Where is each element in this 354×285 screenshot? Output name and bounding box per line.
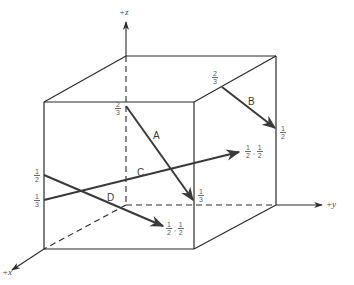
fraction-numerator: 1 [34, 193, 40, 201]
vector-d [44, 175, 163, 226]
vector-d-start-fraction: 12 [34, 168, 40, 183]
fraction-denominator: 2 [178, 229, 184, 236]
edge-right-bottom [194, 205, 276, 249]
vector-c-start-fraction: 13 [34, 193, 40, 208]
vector-d-end-fraction: 12 , 12 [166, 221, 184, 236]
fraction-numerator: 2 [115, 101, 121, 109]
fraction-denominator: 3 [115, 109, 121, 116]
z-axis-label: +z [119, 8, 129, 17]
vector-a [126, 106, 193, 200]
fraction-denominator: 2 [245, 152, 251, 159]
vector-c-end-fraction: 12 , 12 [245, 144, 263, 159]
vector-a-label: A [153, 131, 160, 141]
edge-left-top [44, 56, 126, 102]
x-axis-arrow [12, 249, 44, 270]
fraction-numerator: 1 [245, 144, 251, 152]
vector-d-label: D [107, 193, 114, 203]
fraction-numerator: 1 [257, 144, 263, 152]
cube-diagram [0, 0, 354, 285]
fraction-denominator: 2 [34, 176, 40, 183]
fraction-numerator: 1 [198, 188, 204, 196]
fraction-denominator: 3 [198, 196, 204, 203]
vector-b-end-fraction: 12 [280, 125, 286, 140]
edge-right-top [194, 56, 276, 102]
y-axis-label: +y [326, 200, 336, 209]
vector-b-label: B [248, 97, 255, 107]
fraction-denominator: 2 [280, 133, 286, 140]
fraction-numerator: 2 [212, 70, 218, 78]
vector-b-start-fraction: 23 [212, 70, 218, 85]
vector-a-start-fraction: 23 [115, 101, 121, 116]
vector-b [222, 87, 275, 128]
hidden-edge-x [44, 205, 126, 249]
fraction-numerator: 1 [34, 168, 40, 176]
x-axis-label: +x [2, 268, 12, 277]
fraction-numerator: 1 [178, 221, 184, 229]
fraction-numerator: 1 [166, 221, 172, 229]
fraction-denominator: 2 [166, 229, 172, 236]
fraction-denominator: 3 [34, 201, 40, 208]
fraction-numerator: 1 [280, 125, 286, 133]
coordinate-separator: , [174, 225, 176, 232]
vector-a-end-fraction: 13 [198, 188, 204, 203]
vector-c-label: C [137, 168, 144, 178]
fraction-denominator: 3 [212, 78, 218, 85]
coordinate-separator: , [253, 148, 255, 155]
fraction-denominator: 2 [257, 152, 263, 159]
